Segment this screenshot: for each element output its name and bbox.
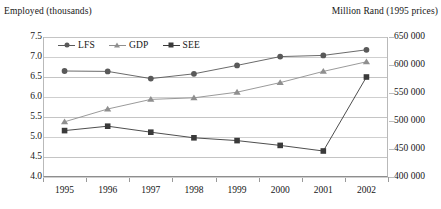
y2-axis-tick-label: 550 000 [394,87,425,97]
circle-marker-icon [64,43,69,48]
y2-axis-tick-mark [389,65,395,66]
square-marker-icon [169,43,174,48]
x-axis-tick-label: 1999 [216,185,259,195]
y-axis-tick-label: 7.5 [30,31,42,41]
data-point-lfs-2001[interactable] [320,53,326,59]
y2-axis-tick-label: 400 000 [394,171,425,181]
legend-label-gdp: GDP [129,40,149,50]
right-axis-title: Million Rand (1995 prices) [332,6,438,16]
y2-axis-tick-mark [389,149,395,150]
left-axis-title: Employed (thousands) [4,6,92,16]
legend-line-lfs [58,45,75,46]
data-point-see-1997[interactable] [148,129,154,135]
y2-axis-tick-label: 650 000 [394,31,425,41]
data-point-lfs-2002[interactable] [364,47,370,53]
data-point-see-2002[interactable] [364,74,370,80]
data-point-see-2000[interactable] [277,143,283,149]
legend-label-lfs: LFS [78,40,95,50]
y-axis-tick-label: 7.0 [30,51,42,61]
x-axis-tick-label: 2000 [259,185,302,195]
y2-axis-tick-label: 600 000 [394,59,425,69]
x-axis-tick-label: 1997 [129,185,172,195]
y-axis-tick-label: 6.0 [30,91,42,101]
series-line-see [65,77,367,151]
series-layer [43,37,388,177]
x-axis-tick-label: 1996 [86,185,129,195]
legend-item-see[interactable]: SEE [163,40,201,50]
legend-item-lfs[interactable]: LFS [58,40,95,50]
y2-axis-tick-mark [389,93,395,94]
y2-axis-tick-mark [389,121,395,122]
y-axis-tick-label: 5.0 [30,131,42,141]
data-point-lfs-1997[interactable] [148,76,154,82]
gridline [43,177,388,178]
triangle-marker-icon [114,43,120,48]
data-point-see-1998[interactable] [191,135,197,141]
y2-axis-tick-label: 500 000 [394,115,425,125]
x-axis-tick-label: 2001 [302,185,345,195]
chart-figure: Employed (thousands) Million Rand (1995 … [0,0,441,209]
y2-axis-tick-label: 450 000 [394,143,425,153]
x-axis-tick-label: 1995 [43,185,86,195]
data-point-gdp-2002[interactable] [363,58,370,64]
data-point-see-2001[interactable] [321,148,327,154]
legend-line-gdp [109,45,126,46]
y2-axis-tick-mark [389,37,395,38]
legend-item-gdp[interactable]: GDP [109,40,149,50]
data-point-see-1999[interactable] [234,138,240,144]
data-point-lfs-1996[interactable] [105,69,111,75]
data-point-lfs-1999[interactable] [234,63,240,69]
x-axis-tick-label: 2002 [345,185,388,195]
data-point-lfs-1995[interactable] [62,68,68,74]
x-axis-tick-mark [388,177,389,182]
legend-line-see [163,45,180,46]
y2-axis-tick-mark [389,177,395,178]
data-point-lfs-2000[interactable] [277,54,283,60]
x-axis-tick-label: 1998 [172,185,215,195]
legend-label-see: SEE [183,40,201,50]
y-axis-tick-label: 4.5 [30,151,42,161]
y-axis-tick-label: 4.0 [30,171,42,181]
y-axis-tick-label: 6.5 [30,71,42,81]
data-point-see-1996[interactable] [105,123,111,129]
chart-legend: LFSGDPSEE [58,40,200,50]
data-point-see-1995[interactable] [62,128,68,134]
plot-area [43,37,388,177]
data-point-lfs-1998[interactable] [191,71,197,77]
y-axis-tick-label: 5.5 [30,111,42,121]
